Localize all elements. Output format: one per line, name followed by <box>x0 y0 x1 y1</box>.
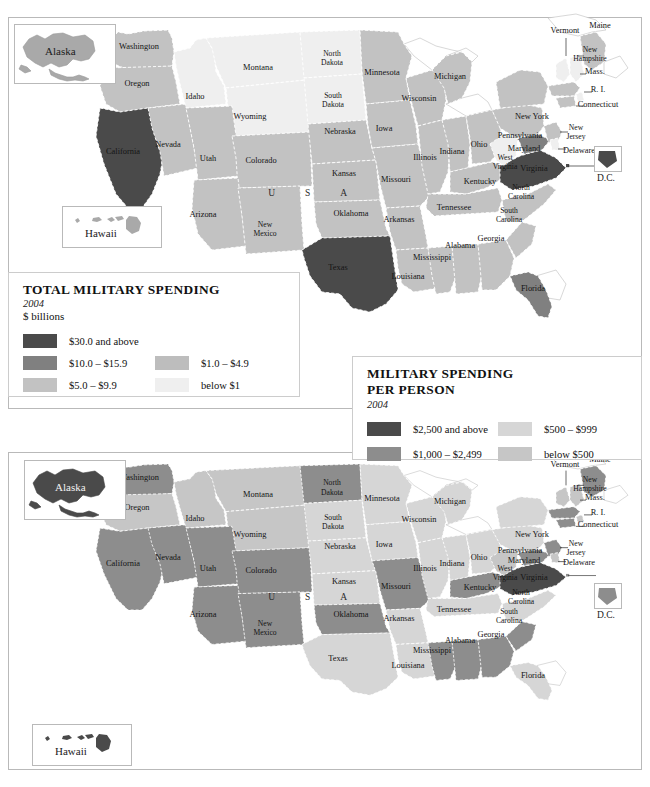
alaska-inset-bottom: Alaska <box>24 460 126 520</box>
dc-inset-top: D.C. <box>594 146 622 172</box>
legend-person-title-line1: MILITARY SPENDING <box>367 366 629 381</box>
states-layer <box>96 451 628 700</box>
state-ok[interactable] <box>314 603 390 634</box>
map-panel-per-person: WashingtonOregonCaliforniaNevadaIdahoMon… <box>0 432 650 787</box>
state-dc[interactable] <box>566 164 569 167</box>
state-label-arkansas: Arkansas <box>383 215 414 224</box>
legend-total-column-right: $1.0 – $4.9 below $1 <box>155 330 287 396</box>
state-label-kentucky: Kentucky <box>464 177 497 186</box>
state-label-idaho: Idaho <box>185 514 204 523</box>
state-label-mississippi: Mississippi <box>413 646 452 655</box>
state-ga[interactable] <box>478 636 514 677</box>
state-ma[interactable] <box>548 82 580 96</box>
state-label-missouri: Missouri <box>381 175 411 184</box>
state-mn[interactable] <box>360 30 412 104</box>
state-label-indiana: Indiana <box>439 559 464 568</box>
state-label-oklahoma: Oklahoma <box>334 209 369 218</box>
state-wy[interactable] <box>226 80 310 136</box>
state-al[interactable] <box>452 640 482 681</box>
legend-item[interactable]: $30.0 and above <box>23 330 155 352</box>
state-label-alabama: Alabama <box>445 241 476 250</box>
state-label-north-dakota: NorthDakota <box>321 49 344 67</box>
state-al[interactable] <box>452 244 482 294</box>
state-ma[interactable] <box>548 507 580 518</box>
state-label-illinois: Illinois <box>413 153 437 162</box>
legend-item[interactable]: $2,500 and above <box>367 417 498 442</box>
state-tx[interactable] <box>302 236 398 312</box>
legend-total-unit: $ billions <box>23 310 287 322</box>
legend-item[interactable]: $5.0 – $9.9 <box>23 374 155 396</box>
legend-swatch <box>155 356 189 370</box>
state-label-louisiana: Louisiana <box>391 272 424 281</box>
state-label-wisconsin: Wisconsin <box>401 94 437 103</box>
state-label-utah: Utah <box>200 154 217 163</box>
state-mt[interactable] <box>206 466 306 512</box>
hawaii-inset-bottom: Hawaii <box>32 724 132 766</box>
legend-military-spending-per-person: MILITARY SPENDING PER PERSON 2004 $2,500… <box>352 356 642 460</box>
state-label-oregon: Oregon <box>124 79 150 88</box>
state-label-ohio: Ohio <box>471 553 488 562</box>
legend-item[interactable]: below $1 <box>155 374 287 396</box>
state-label-mississippi: Mississippi <box>413 253 452 262</box>
legend-item[interactable]: $1.0 – $4.9 <box>155 352 287 374</box>
state-label-colorado: Colorado <box>245 566 276 575</box>
state-label-indiana: Indiana <box>439 147 464 156</box>
legend-person-title-line2: PER PERSON <box>367 382 629 397</box>
legend-total-title: TOTAL MILITARY SPENDING <box>23 282 287 297</box>
state-vt[interactable] <box>556 487 570 507</box>
state-tx[interactable] <box>302 633 398 695</box>
state-label-iowa: Iowa <box>376 540 393 549</box>
state-ok[interactable] <box>314 200 390 238</box>
state-label-nebraska: Nebraska <box>324 127 356 136</box>
hawaii-inset-top: Hawaii <box>62 206 162 248</box>
state-label-idaho: Idaho <box>185 92 204 101</box>
state-label-iowa: Iowa <box>376 124 393 133</box>
alaska-label-bottom: Alaska <box>55 481 86 493</box>
state-ny[interactable] <box>496 497 548 528</box>
usa-letter-1: S <box>305 188 311 198</box>
hawaii-label-top: Hawaii <box>85 227 117 239</box>
state-vt[interactable] <box>556 58 570 82</box>
legend-item-label: $10.0 – $15.9 <box>69 358 127 369</box>
state-ct[interactable] <box>556 518 576 528</box>
state-label-florida: Florida <box>521 284 545 293</box>
state-mt[interactable] <box>206 32 306 88</box>
state-label-minnesota: Minnesota <box>364 68 400 77</box>
state-label-kentucky: Kentucky <box>464 583 497 592</box>
state-label-pennsylvania: Pennsylvania <box>498 131 543 140</box>
hawaii-label-bottom: Hawaii <box>55 745 87 757</box>
legend-item-label: $1.0 – $4.9 <box>201 358 249 369</box>
state-label-north-dakota: NorthDakota <box>321 478 344 496</box>
legend-item[interactable]: $1,000 – $2,499 <box>367 442 498 467</box>
state-dc[interactable] <box>566 574 569 577</box>
legend-person-year: 2004 <box>367 399 629 410</box>
legend-swatch <box>23 334 57 348</box>
state-label-nebraska: Nebraska <box>324 542 356 551</box>
state-de[interactable] <box>550 553 560 563</box>
legend-person-column-left: $2,500 and above $1,000 – $2,499 <box>367 417 498 467</box>
water-body <box>604 485 628 503</box>
legend-swatch <box>155 378 189 392</box>
state-label-california: California <box>106 559 140 568</box>
state-label-massachusetts: Mass. <box>585 493 605 502</box>
dc-label-top: D.C. <box>597 173 615 183</box>
legend-item[interactable]: $10.0 – $15.9 <box>23 352 155 374</box>
state-ga[interactable] <box>478 240 514 290</box>
legend-item[interactable]: $500 – $999 <box>498 417 629 442</box>
legend-item[interactable]: below $500 <box>498 442 629 467</box>
state-label-maryland: Maryland <box>508 556 541 565</box>
legend-item-label: $5.0 – $9.9 <box>69 380 117 391</box>
dc-shape-bottom <box>595 584 621 608</box>
state-wy[interactable] <box>226 505 310 551</box>
legend-swatch <box>367 422 401 436</box>
state-label-alabama: Alabama <box>445 636 476 645</box>
state-ny[interactable] <box>496 70 548 108</box>
state-ar[interactable] <box>386 206 428 250</box>
state-label-connecticut: Connecticut <box>578 520 619 529</box>
state-label-georgia: Georgia <box>478 630 505 639</box>
state-label-new-jersey: NewJersey <box>567 539 586 557</box>
state-ct[interactable] <box>556 96 576 108</box>
state-label-kansas: Kansas <box>332 169 356 178</box>
state-label-rhode-island: R. I. <box>591 85 606 94</box>
state-de[interactable] <box>550 138 560 150</box>
